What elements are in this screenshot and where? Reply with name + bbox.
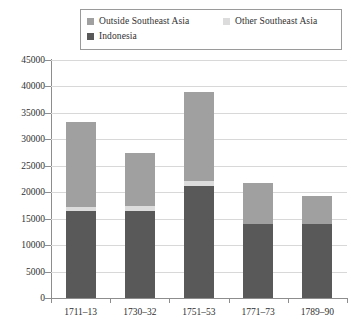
bar-segment-indonesia	[184, 186, 214, 298]
x-axis-tick-label: 1730–32	[110, 307, 169, 318]
x-axis-line	[51, 298, 347, 299]
bar-segment-indonesia	[302, 224, 332, 298]
y-axis-tick-label: 30000	[1, 134, 45, 144]
bar-segment-other-southeast-asia	[184, 181, 214, 186]
bar-segment-outside-southeast-asia	[66, 122, 96, 207]
bar-1751-53	[184, 92, 214, 298]
gridline	[51, 86, 347, 87]
y-axis-tick-label: 45000	[1, 55, 45, 65]
legend-swatch-indonesia	[87, 33, 94, 40]
chart-legend: Outside Southeast Asia Other Southeast A…	[80, 9, 342, 50]
y-axis-tick-label: 5000	[1, 267, 45, 277]
legend-swatch-outside-southeast-asia	[87, 18, 94, 25]
legend-row-1: Outside Southeast Asia Other Southeast A…	[87, 14, 335, 29]
legend-entry-outside-southeast-asia: Outside Southeast Asia	[87, 16, 223, 27]
x-axis-tick-mark	[169, 298, 170, 303]
y-axis-tick-label: 20000	[1, 187, 45, 197]
bar-segment-outside-southeast-asia	[302, 196, 332, 224]
bar-1789-90	[302, 196, 332, 298]
y-axis-tick-label: 0	[1, 293, 45, 303]
legend-entry-indonesia: Indonesia	[87, 31, 223, 42]
bar-segment-indonesia	[243, 224, 273, 298]
legend-label-other-southeast-asia: Other Southeast Asia	[235, 16, 317, 27]
x-axis-tick-label: 1771–73	[229, 307, 288, 318]
bar-segment-outside-southeast-asia	[243, 183, 273, 224]
legend-entry-other-southeast-asia: Other Southeast Asia	[223, 16, 317, 27]
bar-segment-outside-southeast-asia	[125, 153, 155, 206]
y-axis-tick-label: 40000	[1, 81, 45, 91]
legend-row-2: Indonesia	[87, 29, 335, 44]
legend-swatch-other-southeast-asia	[223, 18, 230, 25]
bar-1711-13	[66, 122, 96, 298]
legend-label-indonesia: Indonesia	[99, 31, 137, 42]
bar-segment-outside-southeast-asia	[184, 92, 214, 181]
bar-1771-73	[243, 183, 273, 298]
stacked-bar-chart: Outside Southeast Asia Other Southeast A…	[0, 0, 362, 330]
x-axis-tick-mark	[51, 298, 52, 303]
y-axis-tick-label: 35000	[1, 108, 45, 118]
y-axis-tick-label: 25000	[1, 161, 45, 171]
x-axis-tick-label: 1789–90	[288, 307, 347, 318]
x-axis-tick-label: 1711–13	[51, 307, 110, 318]
bar-1730-32	[125, 153, 155, 298]
y-axis-tick-label: 15000	[1, 214, 45, 224]
bar-segment-indonesia	[66, 211, 96, 298]
bar-segment-other-southeast-asia	[125, 206, 155, 211]
bar-segment-other-southeast-asia	[66, 207, 96, 211]
plot-area	[51, 60, 347, 298]
x-axis-tick-label: 1751–53	[169, 307, 228, 318]
legend-label-outside-southeast-asia: Outside Southeast Asia	[99, 16, 189, 27]
y-axis-tick-labels: 4500040000350003000025000200001500010000…	[0, 0, 45, 330]
y-axis-tick-label: 10000	[1, 240, 45, 250]
bar-segment-indonesia	[125, 211, 155, 298]
x-axis-tick-mark	[288, 298, 289, 303]
x-axis-tick-mark	[110, 298, 111, 303]
x-axis-tick-mark	[229, 298, 230, 303]
x-axis-tick-mark	[347, 298, 348, 303]
gridline	[51, 60, 347, 61]
